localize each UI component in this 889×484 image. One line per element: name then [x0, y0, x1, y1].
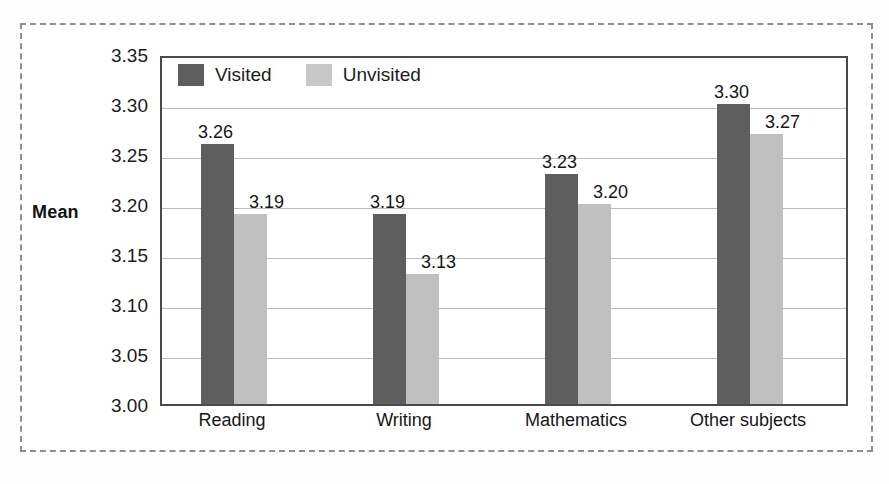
bar-value-label: 3.19 [249, 192, 284, 213]
bar-unvisited-other-subjects [750, 134, 783, 404]
y-axis-tick-labels: 3.353.303.253.203.153.103.053.00 [86, 56, 148, 406]
y-axis-tick-label: 3.15 [86, 245, 148, 267]
plot-inner: 3.263.193.193.133.233.203.303.27 [162, 58, 846, 404]
y-axis-tick-label: 3.25 [86, 145, 148, 167]
bar-value-label: 3.27 [765, 112, 800, 133]
legend-item-visited[interactable]: Visited [178, 64, 272, 86]
bar-value-label: 3.30 [714, 82, 749, 103]
legend-swatch-icon [306, 64, 332, 86]
legend-label: Unvisited [343, 64, 421, 86]
x-axis-tick-label: Writing [376, 410, 432, 431]
y-axis-tick-label: 3.35 [86, 45, 148, 67]
x-axis-tick-label: Reading [198, 410, 265, 431]
bar-visited-writing [373, 214, 406, 404]
y-axis-tick-label: 3.10 [86, 295, 148, 317]
bar-value-label: 3.13 [421, 252, 456, 273]
legend-label: Visited [215, 64, 272, 86]
x-axis-tick-label: Other subjects [690, 410, 806, 431]
bar-value-label: 3.26 [198, 122, 233, 143]
x-axis-tick-label: Mathematics [525, 410, 627, 431]
y-axis-tick-label: 3.30 [86, 95, 148, 117]
y-axis-tick-label: 3.00 [86, 395, 148, 417]
chart-legend: VisitedUnvisited [178, 64, 421, 86]
bar-value-label: 3.20 [593, 182, 628, 203]
y-axis-tick-label: 3.05 [86, 345, 148, 367]
y-axis-title: Mean [32, 202, 79, 223]
bar-unvisited-mathematics [578, 204, 611, 404]
plot-area: 3.263.193.193.133.233.203.303.27 Visited… [160, 56, 848, 406]
bar-visited-reading [201, 144, 234, 404]
bar-visited-other-subjects [717, 104, 750, 404]
bar-value-label: 3.19 [370, 192, 405, 213]
legend-item-unvisited[interactable]: Unvisited [306, 64, 421, 86]
bar-unvisited-reading [234, 214, 267, 404]
bar-unvisited-writing [406, 274, 439, 404]
bar-value-label: 3.23 [542, 152, 577, 173]
bar-visited-mathematics [545, 174, 578, 404]
legend-swatch-icon [178, 64, 204, 86]
y-axis-tick-label: 3.20 [86, 195, 148, 217]
chart-figure: Mean 3.353.303.253.203.153.103.053.00 3.… [0, 0, 889, 484]
